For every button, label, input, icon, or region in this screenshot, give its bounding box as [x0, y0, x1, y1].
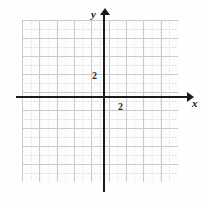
- major-gridlines: [22, 20, 178, 182]
- y-axis-line: [103, 14, 105, 192]
- grid-area: [22, 20, 178, 182]
- y-axis-label: y: [91, 9, 96, 20]
- minor-grid-dots: [22, 20, 178, 182]
- y-axis-arrow-icon: [100, 8, 110, 15]
- x-axis-label: x: [192, 98, 198, 109]
- y-axis-tick-label-2: 2: [92, 71, 97, 81]
- coordinate-plane-figure: y x 2 2: [0, 0, 204, 206]
- x-axis-tick-label-2: 2: [118, 102, 123, 112]
